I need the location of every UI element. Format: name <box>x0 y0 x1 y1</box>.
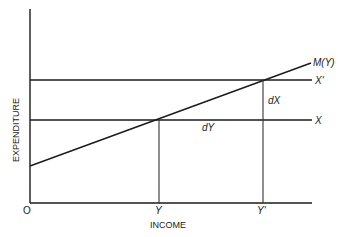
y-tick-label: Y <box>155 205 163 216</box>
y-prime-tick-label: Y' <box>257 205 267 216</box>
origin-label: O <box>23 205 31 216</box>
dx-label: dX <box>268 95 281 106</box>
dy-label: dY <box>202 122 216 133</box>
x-prime-label: X' <box>314 75 325 86</box>
m-of-y-label: M(Y) <box>313 57 335 68</box>
income-expenditure-diagram: M(Y) X' X dX dY O Y Y' INCOME EXPENDITUR… <box>0 0 346 237</box>
y-axis-title: EXPENDITURE <box>11 98 21 162</box>
m-of-y-line <box>30 63 311 166</box>
x-axis-title: INCOME <box>150 220 186 230</box>
x-label: X <box>314 115 322 126</box>
